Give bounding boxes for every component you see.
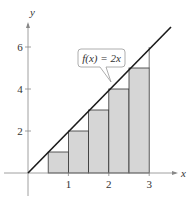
function-callout: f(x) = 2x xyxy=(78,49,125,82)
y-axis-arrow-icon xyxy=(26,22,30,28)
rectangles xyxy=(48,68,149,173)
y-axis-label: y xyxy=(29,6,35,18)
rect-3 xyxy=(89,110,109,173)
x-tick-1: 1 xyxy=(66,178,72,190)
rect-5 xyxy=(129,68,149,173)
rect-1 xyxy=(48,152,68,173)
y-tick-6: 6 xyxy=(17,41,23,53)
function-label: f(x) = 2x xyxy=(82,52,121,65)
x-tick-2: 2 xyxy=(106,178,112,190)
x-tick-3: 3 xyxy=(146,178,152,190)
y-tick-2: 2 xyxy=(17,125,23,137)
riemann-sum-diagram: f(x) = 2x 1 2 3 2 4 6 x y xyxy=(0,0,192,205)
y-tick-4: 4 xyxy=(17,83,23,95)
x-axis-arrow-icon xyxy=(172,171,178,175)
x-axis-label: x xyxy=(180,167,186,179)
rect-4 xyxy=(109,89,129,173)
rect-2 xyxy=(68,131,88,173)
